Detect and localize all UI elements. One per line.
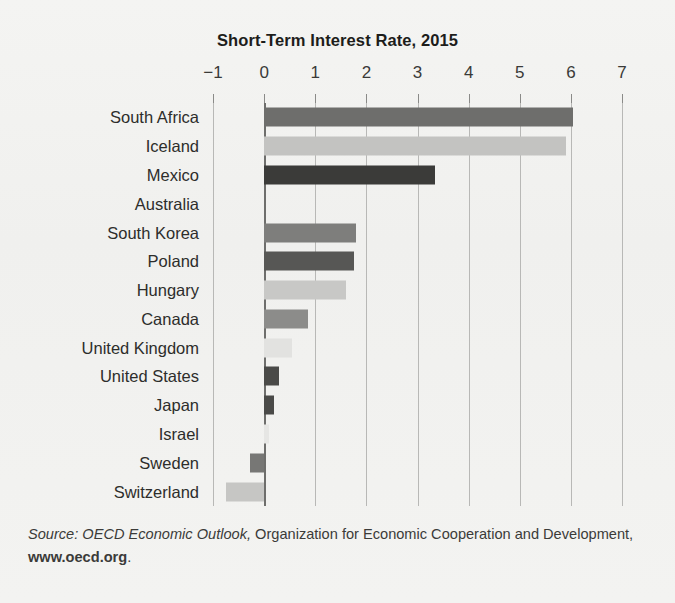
category-label-united-states: United States <box>100 367 205 386</box>
gridline-2 <box>366 103 367 506</box>
bar-south-africa <box>264 108 573 127</box>
bar-sweden <box>250 453 264 472</box>
category-label-united-kingdom: United Kingdom <box>82 338 205 357</box>
gridline-3 <box>418 103 419 506</box>
tick-mark-5 <box>469 94 470 103</box>
gridline-5 <box>520 103 521 506</box>
bar-israel <box>264 425 269 444</box>
bar-mexico <box>264 165 435 184</box>
bar-hungary <box>264 281 346 300</box>
category-label-mexico: Mexico <box>147 165 205 184</box>
source-label: Source: OECD Economic Outlook, <box>28 526 251 542</box>
category-label-israel: Israel <box>159 425 205 444</box>
bar-united-states <box>264 367 279 386</box>
x-tick-label: 1 <box>311 63 320 83</box>
x-tick-label: −1 <box>203 63 222 83</box>
plot-area <box>213 103 622 506</box>
gridline-1 <box>315 103 316 506</box>
category-label-switzerland: Switzerland <box>114 482 205 501</box>
gridline-neg1 <box>213 103 214 506</box>
y-axis-category-labels: South AfricaIcelandMexicoAustraliaSouth … <box>0 103 205 506</box>
category-label-canada: Canada <box>141 309 205 328</box>
gridline-4 <box>469 103 470 506</box>
category-label-japan: Japan <box>154 396 205 415</box>
bar-poland <box>264 252 353 271</box>
tick-mark-3 <box>366 94 367 103</box>
gridline-0 <box>264 103 266 506</box>
category-label-australia: Australia <box>135 194 205 213</box>
category-label-iceland: Iceland <box>146 137 205 156</box>
category-label-sweden: Sweden <box>139 453 205 472</box>
bar-japan <box>264 396 274 415</box>
category-label-poland: Poland <box>148 252 205 271</box>
source-note: Source: OECD Economic Outlook, Organizat… <box>28 523 653 568</box>
x-tick-label: 4 <box>464 63 473 83</box>
source-period: . <box>127 549 131 565</box>
bar-canada <box>264 309 307 328</box>
x-tick-label: 5 <box>515 63 524 83</box>
tick-mark-4 <box>418 94 419 103</box>
x-tick-label: 2 <box>362 63 371 83</box>
x-tick-label: 7 <box>617 63 626 83</box>
tick-mark-0 <box>213 94 214 103</box>
tick-mark-2 <box>315 94 316 103</box>
x-tick-label: 6 <box>566 63 575 83</box>
x-tick-label: 3 <box>413 63 422 83</box>
chart-title: Short-Term Interest Rate, 2015 <box>0 31 675 50</box>
source-body: Organization for Economic Cooperation an… <box>251 526 633 542</box>
bar-switzerland <box>226 482 264 501</box>
bar-south-korea <box>264 223 356 242</box>
tick-mark-8 <box>622 94 623 103</box>
tick-mark-1 <box>264 94 265 103</box>
bar-iceland <box>264 137 566 156</box>
bar-united-kingdom <box>264 338 292 357</box>
chart-figure: Short-Term Interest Rate, 2015 −10123456… <box>0 0 675 603</box>
tick-mark-7 <box>571 94 572 103</box>
x-tick-label: 0 <box>259 63 268 83</box>
gridline-6 <box>571 103 572 506</box>
category-label-hungary: Hungary <box>137 281 205 300</box>
tick-mark-6 <box>520 94 521 103</box>
source-url: www.oecd.org <box>28 549 127 565</box>
category-label-south-africa: South Africa <box>110 108 205 127</box>
gridline-7 <box>622 103 623 506</box>
category-label-south-korea: South Korea <box>107 223 205 242</box>
x-axis-tick-labels: −101234567 <box>213 63 622 87</box>
